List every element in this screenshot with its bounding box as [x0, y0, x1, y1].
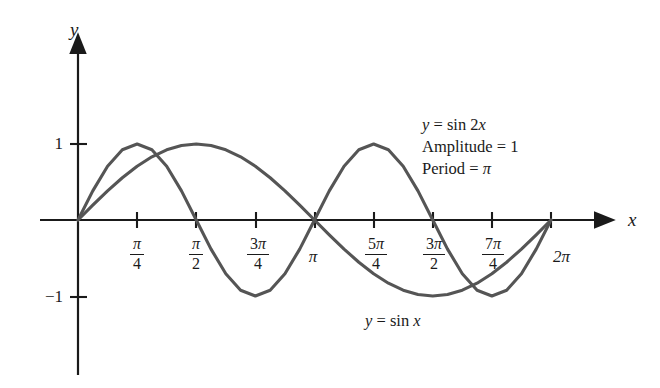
y-axis-label: y: [70, 20, 78, 39]
annotation-period: Period = π: [422, 158, 518, 180]
x-tick-label-pi: π: [309, 248, 318, 265]
sin-x-curve-label: y = sin x: [365, 311, 421, 331]
x-tick-label-3pi-over-2: 3π 2: [423, 236, 445, 272]
x-tick-label-7pi-over-4: 7π 4: [482, 236, 504, 272]
x-tick-label-pi-over-4: π 4: [130, 236, 144, 272]
x-tick-numerator: π: [189, 236, 203, 255]
x-tick-numerator: 7π: [482, 236, 504, 255]
y-tick-label-negative-one: −1: [33, 288, 63, 305]
x-tick-denominator: 4: [247, 255, 269, 273]
sin-2x-annotation: y = sin 2x Amplitude = 1 Period = π: [422, 114, 518, 179]
sine-graph-figure: y x 1 −1 π 4 π 2 3π 4 π 5π 4 3π 2: [0, 0, 660, 388]
x-tick-denominator: 2: [189, 255, 203, 273]
annotation-equation: y = sin 2x: [422, 114, 518, 136]
x-tick-numerator: 3π: [247, 236, 269, 255]
x-tick-label-pi-over-2: π 2: [189, 236, 203, 272]
x-tick-numerator: 5π: [365, 236, 387, 255]
x-tick-label-5pi-over-4: 5π 4: [365, 236, 387, 272]
x-tick-denominator: 2: [423, 255, 445, 273]
plot-canvas: [0, 0, 660, 388]
x-tick-denominator: 4: [482, 255, 504, 273]
x-tick-denominator: 4: [130, 255, 144, 273]
x-tick-numerator: 3π: [423, 236, 445, 255]
x-tick-numerator: π: [130, 236, 144, 255]
y-tick-label-positive-one: 1: [43, 135, 63, 152]
x-tick-label-2pi: 2π: [553, 248, 570, 265]
x-tick-denominator: 4: [365, 255, 387, 273]
x-tick-label-3pi-over-4: 3π 4: [247, 236, 269, 272]
x-axis-label: x: [628, 210, 636, 229]
annotation-amplitude: Amplitude = 1: [422, 136, 518, 158]
